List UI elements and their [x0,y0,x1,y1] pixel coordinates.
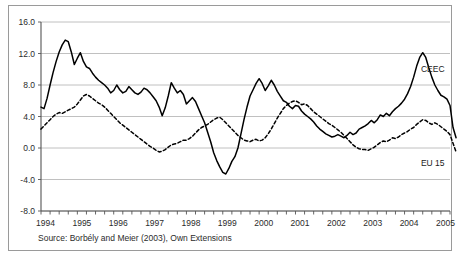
ytick-label: -8.0 [20,206,35,216]
ytick-label: 8.0 [23,80,35,90]
ytick-label: 16.0 [18,17,35,27]
xtick-label: 2002 [327,218,346,228]
xtick-label: 2004 [400,218,419,228]
source-note: Source: Borbély and Meier (2003), Own Ex… [38,233,232,243]
xtick-label: 1997 [145,218,164,228]
xtick-label: 1998 [182,218,201,228]
xtick-label: 2001 [291,218,310,228]
series-label-ceec: CEEC [421,64,445,74]
xtick-label: 1999 [218,218,237,228]
chart-figure: 16.012.08.04.00.0-4.0-8.0199419951996199… [0,0,461,261]
xtick-label: 2000 [254,218,273,228]
xtick-label: 2003 [363,218,382,228]
series-line-ceec [41,40,456,174]
xtick-label: 1994 [36,218,55,228]
xtick-label: 1996 [109,218,128,228]
series-label-eu-15: EU 15 [421,158,445,168]
ytick-label: 4.0 [23,112,35,122]
ytick-label: 12.0 [18,49,35,59]
ytick-label: -4.0 [20,175,35,185]
xtick-label: 2005 [436,218,455,228]
xtick-label: 1995 [72,218,91,228]
ytick-label: 0.0 [23,143,35,153]
line-chart: 16.012.08.04.00.0-4.0-8.0199419951996199… [0,0,461,261]
